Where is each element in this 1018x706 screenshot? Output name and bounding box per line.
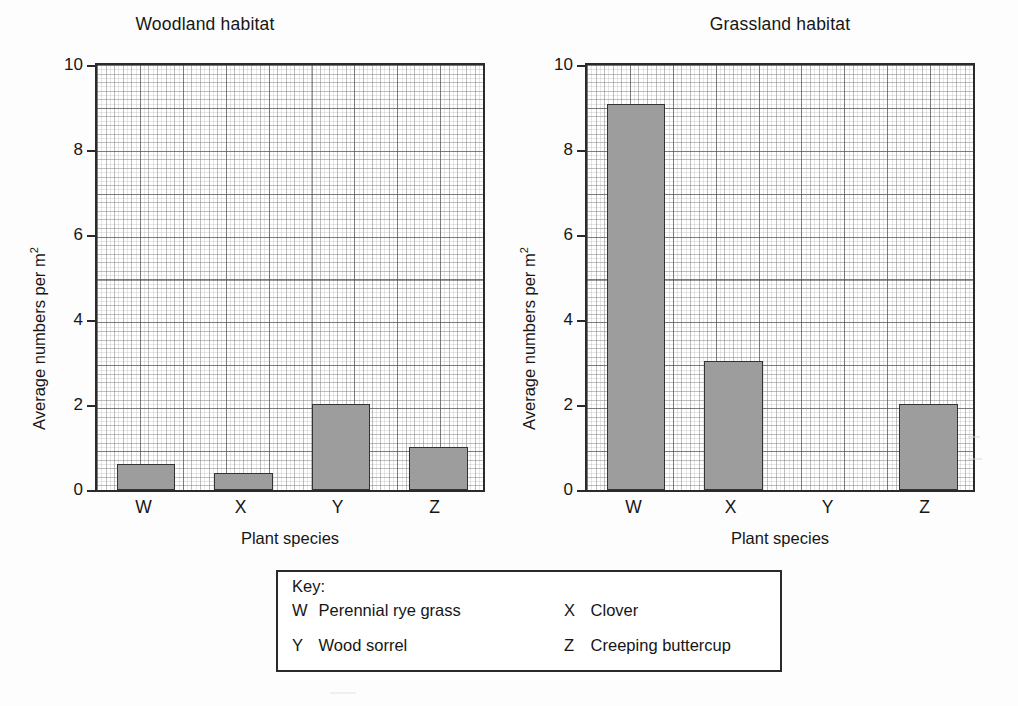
x-tick-y: Y <box>289 497 386 518</box>
y-tick-4: 4 <box>564 310 587 330</box>
y-axis-label-exponent: 2 <box>28 247 40 253</box>
x-axis-label-grassland: Plant species <box>585 529 975 548</box>
y-tick-6: 6 <box>564 225 587 245</box>
y-tick-8: 8 <box>74 140 97 160</box>
key-name-w: Perennial rye grass <box>319 601 461 619</box>
y-axis-label-exponent: 2 <box>518 247 530 253</box>
x-axis-label-woodland: Plant species <box>95 529 485 548</box>
y-tick-4: 4 <box>74 310 97 330</box>
y-tick-0: 0 <box>74 480 97 500</box>
y-axis-label-text: Average numbers per m <box>30 253 48 430</box>
y-tick-2: 2 <box>564 395 587 415</box>
x-tick-z: Z <box>386 497 483 518</box>
y-tick-2: 2 <box>74 395 97 415</box>
y-tick-10: 10 <box>64 55 97 75</box>
chart-title-woodland: Woodland habitat <box>0 14 505 35</box>
bar-z <box>409 447 468 490</box>
bar-group-woodland <box>97 65 483 490</box>
bar-y <box>312 404 371 490</box>
key-code-x: X <box>564 601 586 620</box>
x-tick-x: X <box>682 497 779 518</box>
bar-group-grassland <box>587 65 973 490</box>
x-tick-w: W <box>585 497 682 518</box>
key-title: Key: <box>292 577 325 596</box>
key-name-x: Clover <box>591 601 639 619</box>
bar-w <box>117 464 176 490</box>
chart-panel-grassland: Grassland habitat Average numbers per m2… <box>490 0 990 570</box>
key-legend-box: Key: W Perennial rye grass X Clover Y Wo… <box>276 570 782 672</box>
bar-z <box>899 404 958 490</box>
y-axis-label-grassland: Average numbers per m2 <box>518 247 539 430</box>
chart-panel-woodland: Woodland habitat Average numbers per m2 … <box>0 0 500 570</box>
y-tick-6: 6 <box>74 225 97 245</box>
plot-area-grassland: 10 8 6 4 2 0 <box>585 63 975 492</box>
plot-area-woodland: 10 8 6 4 2 0 <box>95 63 485 492</box>
bar-x <box>704 361 763 490</box>
bar-w <box>607 104 666 490</box>
y-tick-8: 8 <box>564 140 587 160</box>
key-code-y: Y <box>292 636 314 655</box>
key-entry-y: Y Wood sorrel <box>292 636 407 655</box>
scan-artifact <box>330 692 356 694</box>
y-tick-0: 0 <box>564 480 587 500</box>
key-code-z: Z <box>564 636 586 655</box>
x-tick-x: X <box>192 497 289 518</box>
y-axis-label-text: Average numbers per m <box>520 253 538 430</box>
key-name-y: Wood sorrel <box>319 636 408 654</box>
x-tick-z: Z <box>876 497 973 518</box>
key-entry-x: X Clover <box>564 601 638 620</box>
key-entry-z: Z Creeping buttercup <box>564 636 731 655</box>
key-code-w: W <box>292 601 314 620</box>
chart-title-grassland: Grassland habitat <box>480 14 1018 35</box>
y-axis-label-woodland: Average numbers per m2 <box>28 247 49 430</box>
bar-x <box>214 473 273 490</box>
x-tick-w: W <box>95 497 192 518</box>
key-entry-w: W Perennial rye grass <box>292 601 461 620</box>
figure-canvas: Woodland habitat Average numbers per m2 … <box>0 0 1018 706</box>
x-tick-y: Y <box>779 497 876 518</box>
y-tick-10: 10 <box>554 55 587 75</box>
key-name-z: Creeping buttercup <box>591 636 731 654</box>
